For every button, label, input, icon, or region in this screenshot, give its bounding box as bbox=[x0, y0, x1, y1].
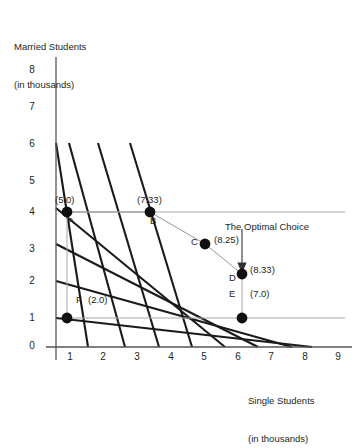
x-axis-title: Single Students (in thousands) bbox=[248, 370, 315, 448]
connector-c-d bbox=[205, 244, 242, 274]
optimal-choice-annotation: The Optimal Choice bbox=[225, 221, 309, 232]
point-id-B: B bbox=[150, 215, 156, 226]
point-id-E: E bbox=[229, 288, 235, 299]
point-value-B: (7.33) bbox=[137, 194, 162, 205]
point-value-F: (2.0) bbox=[88, 294, 108, 305]
y-tick-label-7: 7 bbox=[25, 101, 39, 112]
point-id-A: A bbox=[68, 215, 74, 226]
data-point-C bbox=[200, 239, 211, 250]
y-axis-title-line1: Married Students bbox=[14, 41, 86, 54]
point-id-C: C bbox=[191, 236, 198, 247]
data-point-F bbox=[62, 313, 73, 324]
y-tick-label-0: 0 bbox=[25, 340, 39, 351]
optimal-choice-arrow bbox=[238, 229, 246, 272]
x-tick-label-6: 6 bbox=[231, 351, 245, 362]
point-value-E: (7.0) bbox=[250, 288, 270, 299]
x-tick-label-5: 5 bbox=[197, 351, 211, 362]
point-id-F: F bbox=[76, 294, 82, 305]
y-tick-label-8: 8 bbox=[25, 64, 39, 75]
y-tick-label-2: 2 bbox=[25, 275, 39, 286]
y-tick-label-6: 6 bbox=[25, 138, 39, 149]
data-point-D bbox=[237, 269, 248, 280]
x-tick-label-2: 2 bbox=[96, 351, 110, 362]
budget-line-3 bbox=[98, 143, 159, 347]
x-tick-label-1: 1 bbox=[63, 351, 77, 362]
y-axis-title-line2: (in thousands) bbox=[14, 79, 86, 92]
y-tick-label-3: 3 bbox=[25, 243, 39, 254]
x-tick-label-8: 8 bbox=[298, 351, 312, 362]
y-tick-label-1: 1 bbox=[25, 312, 39, 323]
point-value-C: (8.25) bbox=[214, 234, 239, 245]
point-value-D: (8.33) bbox=[250, 264, 275, 275]
x-tick-label-7: 7 bbox=[264, 351, 278, 362]
x-tick-label-3: 3 bbox=[130, 351, 144, 362]
x-axis-title-line1: Single Students bbox=[248, 395, 315, 408]
data-point-E bbox=[237, 313, 248, 324]
point-value-A: (5.0) bbox=[55, 194, 75, 205]
x-tick-label-9: 9 bbox=[331, 351, 345, 362]
y-tick-label-5: 5 bbox=[25, 175, 39, 186]
budget-lines-group bbox=[56, 143, 312, 347]
x-axis-title-line2: (in thousands) bbox=[248, 433, 315, 446]
x-tick-label-4: 4 bbox=[164, 351, 178, 362]
point-id-D: D bbox=[229, 272, 236, 283]
y-tick-label-4: 4 bbox=[25, 206, 39, 217]
budget-line-5 bbox=[56, 208, 225, 347]
axes-group bbox=[46, 57, 352, 360]
budget-line-2 bbox=[69, 143, 125, 347]
